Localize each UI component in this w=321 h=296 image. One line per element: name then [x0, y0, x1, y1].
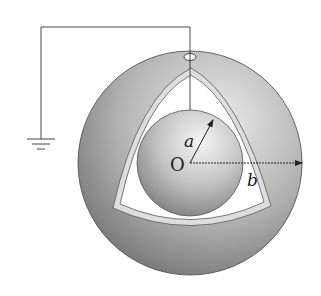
diagram-canvas: a O b	[0, 0, 321, 296]
label-b: b	[247, 170, 258, 190]
label-a: a	[184, 131, 194, 151]
label-center-o: O	[170, 154, 185, 175]
ground-symbol-icon	[27, 139, 55, 149]
